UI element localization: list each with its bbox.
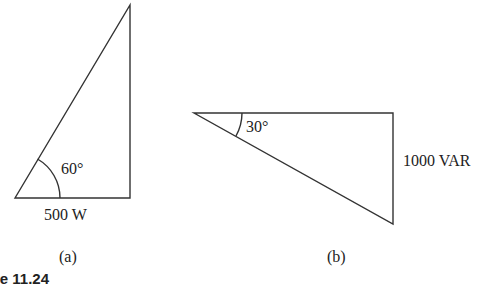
base-label-a: 500 W (44, 206, 87, 224)
triangle-b (194, 113, 393, 224)
angle-arc-a (38, 159, 61, 198)
side-label-b: 1000 VAR (403, 152, 470, 170)
sublabel-a: (a) (59, 248, 77, 266)
angle-label-b: 30° (246, 118, 268, 136)
angle-label-a: 60° (61, 160, 83, 178)
figure-caption: re 11.24 (0, 270, 49, 287)
sublabel-b: (b) (327, 248, 346, 266)
angle-arc-b (236, 113, 242, 136)
